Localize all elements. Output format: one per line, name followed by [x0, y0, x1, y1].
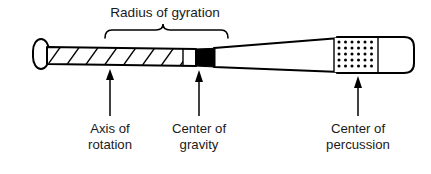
bat-taper — [214, 38, 340, 72]
bat-diagram-svg: Radius of gyration Axis of rotation Cent… — [0, 0, 431, 174]
center-of-gravity-line2: gravity — [180, 137, 219, 152]
axis-of-rotation-line2: rotation — [88, 137, 132, 152]
center-of-percussion-line1: Center of — [331, 121, 386, 136]
bat-diagram: Radius of gyration Axis of rotation Cent… — [0, 0, 431, 174]
radius-of-gyration-label: Radius of gyration — [110, 5, 220, 20]
center-of-percussion-line2: percussion — [326, 137, 390, 152]
center-of-gravity-block — [196, 48, 215, 67]
center-of-gravity-arrow — [195, 70, 203, 116]
label-center-of-percussion: Center of percussion — [326, 121, 390, 152]
axis-of-rotation-line1: Axis of — [90, 121, 130, 136]
radius-of-gyration-brace — [105, 24, 228, 38]
label-axis-of-rotation: Axis of rotation — [88, 121, 132, 152]
center-of-gravity-line1: Center of — [172, 121, 227, 136]
center-of-percussion-panel — [334, 38, 378, 73]
label-center-of-gravity: Center of gravity — [172, 121, 227, 152]
center-of-percussion-arrow — [354, 76, 362, 116]
bat-handle — [47, 47, 196, 66]
axis-of-rotation-arrow — [106, 69, 114, 116]
